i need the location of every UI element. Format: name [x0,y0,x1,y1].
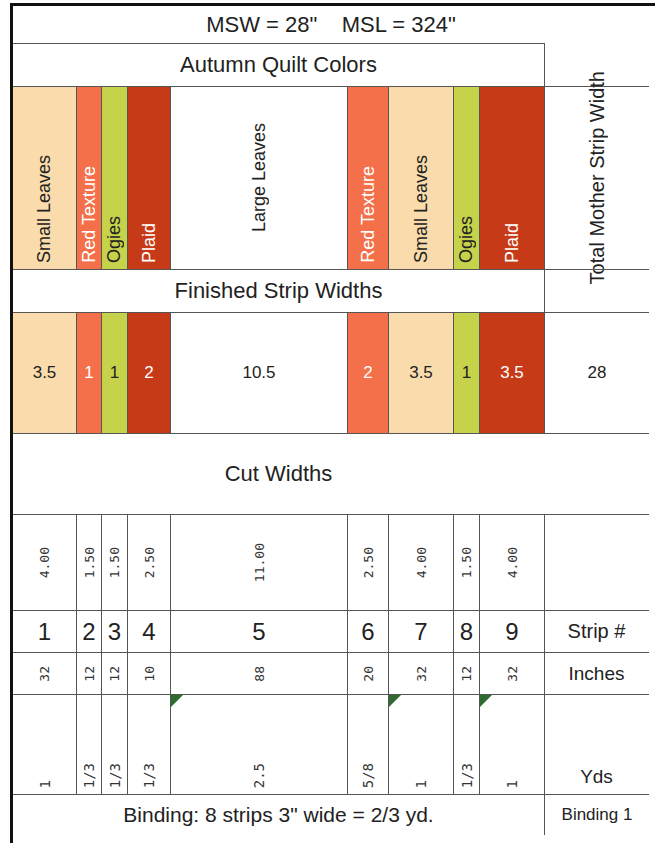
finished-width-8: 1 [453,313,479,433]
cut-width-6: 2.50 [347,515,388,610]
fabric-swatch-3: Ogies [101,87,127,269]
inches-value: 12 [107,666,122,682]
yards-3: 1/3 [101,695,127,794]
finished-width-6: 2 [347,313,388,433]
binding-note: Binding: 8 strips 3" wide = 2/3 yd. [13,795,544,835]
inches-value: 32 [505,666,520,682]
yards-6: 5/8 [347,695,388,794]
fabric-swatch-6: Red Texture [347,87,388,269]
finished-width-5: 10.5 [170,313,347,433]
inches-4: 10 [127,653,170,694]
strip-number-9: 9 [479,611,544,652]
fabric-swatch-7: Small Leaves [388,87,453,269]
inches-value: 32 [37,666,52,682]
strip-number-2: 2 [76,611,101,652]
comment-indicator-icon[interactable] [480,695,492,707]
cut-width-value: 2.50 [142,547,157,578]
strip-number-label: Strip # [544,611,649,652]
strip-number-8: 8 [453,611,479,652]
cut-width-1: 4.00 [13,515,76,610]
fabric-name: Small Leaves [411,155,432,263]
cut-width-value: 4.00 [505,547,520,578]
yards-label: Yds [544,695,649,794]
inches-label: Inches [544,653,649,694]
yards-value: 1/3 [141,763,157,788]
col-divider [544,269,545,313]
inches-6: 20 [347,653,388,694]
yards-value: 1 [37,780,53,788]
finished-width-1: 3.5 [13,313,76,433]
fabric-name: Red Texture [358,166,379,263]
col-divider [544,43,545,87]
inches-5: 88 [170,653,347,694]
fabric-swatch-5: Large Leaves [170,87,347,269]
yards-value: 5/8 [360,763,376,788]
cut-width-4: 2.50 [127,515,170,610]
strip-number-6: 6 [347,611,388,652]
inches-8: 12 [453,653,479,694]
finished-strip-widths-title: Finished Strip Widths [13,270,544,312]
finished-width-7: 3.5 [388,313,453,433]
yards-2: 1/3 [76,695,101,794]
yards-value: 1 [504,780,520,788]
cut-width-value: 4.00 [37,547,52,578]
fabric-name: Plaid [502,223,523,263]
fabric-swatch-4: Plaid [127,87,170,269]
yards-7: 1 [388,695,453,794]
inches-7: 32 [388,653,453,694]
fabric-name: Ogies [104,216,125,263]
total-mother-strip-width-value: 28 [544,313,649,433]
cut-width-value: 11.00 [252,543,267,582]
fabric-name: Small Leaves [34,155,55,263]
yards-value: 2.5 [251,763,267,788]
yards-value: 1/3 [107,763,123,788]
fabric-name: Plaid [139,223,160,263]
col-divider [544,514,545,795]
finished-width-3: 1 [101,313,127,433]
inches-value: 10 [142,666,157,682]
header-title: MSW = 28" MSL = 324" [13,6,649,43]
yards-value: 1/3 [81,763,97,788]
cut-width-value: 1.50 [459,547,474,578]
inches-value: 12 [459,666,474,682]
comment-indicator-icon[interactable] [389,695,401,707]
total-mother-strip-width-label: Total Mother Strip Width [544,87,649,269]
strip-number-3: 3 [101,611,127,652]
fabric-name: Ogies [456,216,477,263]
cut-width-value: 1.50 [107,547,122,578]
finished-width-9: 3.5 [479,313,544,433]
yards-value: 1/3 [459,763,475,788]
yards-4: 1/3 [127,695,170,794]
cut-widths-title: Cut Widths [13,434,544,514]
cut-width-2: 1.50 [76,515,101,610]
strip-number-4: 4 [127,611,170,652]
fabric-swatch-9: Plaid [479,87,544,269]
inches-value: 88 [252,666,267,682]
comment-indicator-icon[interactable] [171,695,183,707]
strip-number-5: 5 [170,611,347,652]
fabric-name: Red Texture [79,166,100,263]
strip-number-1: 1 [13,611,76,652]
binding-label: Binding 1 [544,795,649,835]
autumn-quilt-colors-title: Autumn Quilt Colors [13,44,544,86]
finished-width-2: 1 [76,313,101,433]
inches-value: 32 [414,666,429,682]
yards-5: 2.5 [170,695,347,794]
cut-width-value: 1.50 [82,547,97,578]
yards-1: 1 [13,695,76,794]
inches-value: 20 [361,666,376,682]
cut-width-value: 2.50 [361,547,376,578]
cut-width-5: 11.00 [170,515,347,610]
cut-width-3: 1.50 [101,515,127,610]
cut-width-8: 1.50 [453,515,479,610]
yards-9: 1 [479,695,544,794]
yards-value: 1 [413,780,429,788]
fabric-swatch-2: Red Texture [76,87,101,269]
strip-number-7: 7 [388,611,453,652]
inches-3: 12 [101,653,127,694]
inches-1: 32 [13,653,76,694]
finished-width-4: 2 [127,313,170,433]
inches-9: 32 [479,653,544,694]
fabric-name: Large Leaves [249,123,270,232]
fabric-swatch-8: Ogies [453,87,479,269]
